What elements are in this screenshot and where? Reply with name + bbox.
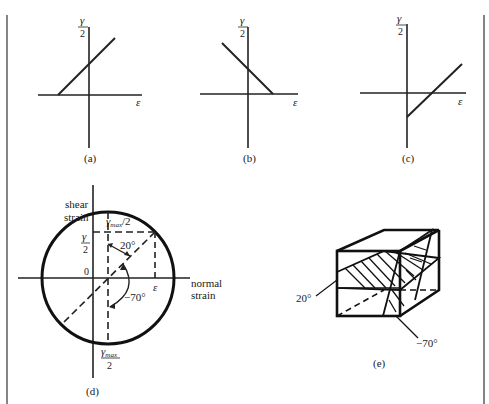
cube-top-face: [337, 230, 439, 251]
y-label-num: γ: [80, 14, 85, 26]
caption-b: (b): [243, 152, 256, 165]
origin-label: 0: [84, 266, 89, 277]
panel-e-strain-cube: [316, 230, 439, 338]
plane-20deg: [337, 251, 439, 290]
cube-angle-neg70-label: −70°: [416, 337, 438, 349]
y-label-den: 2: [240, 28, 245, 39]
hidden-edge: [337, 290, 384, 316]
y-label-den: 2: [398, 26, 403, 37]
x-label: ε: [136, 96, 141, 108]
epsilon-label: ε: [153, 281, 158, 293]
figure-canvas: γ 2 ε (a) γ 2 ε (b) γ 2 ε (c): [0, 0, 489, 404]
normal-label-2: strain: [191, 289, 216, 301]
angle-20-label: 20°: [120, 239, 135, 251]
panel-c: γ 2 ε (c): [360, 12, 466, 165]
bottom-label-num: γmax: [101, 345, 118, 359]
leader-20: [316, 280, 337, 296]
panel-b: γ 2 ε (b): [200, 14, 298, 165]
top-label: γmax/2: [106, 215, 131, 229]
strain-line: [407, 64, 462, 117]
x-label: ε: [293, 96, 298, 108]
arrowhead: [109, 303, 115, 309]
y-label-num: γ: [397, 12, 402, 24]
panel-d-mohr-circle: shear strain γmax/2 γ 2 0 ε 20° −70° nor…: [18, 185, 222, 398]
shear-label-2: strain: [64, 211, 89, 223]
x-label: ε: [458, 95, 463, 107]
bottom-label-den: 2: [107, 360, 112, 371]
panel-a: γ 2 ε (a): [38, 14, 142, 165]
caption-a: (a): [84, 152, 97, 165]
gamma-half-den: 2: [83, 244, 88, 255]
shear-label-1: shear: [65, 198, 89, 210]
y-label-num: γ: [240, 14, 245, 26]
cube-angle-20-label: 20°: [296, 292, 311, 304]
caption-e: (e): [373, 357, 386, 370]
strain-line: [58, 38, 115, 95]
angle-neg70-label: −70°: [124, 291, 146, 303]
caption-d: (d): [86, 385, 99, 398]
caption-c: (c): [402, 152, 415, 165]
y-label-den: 2: [80, 28, 85, 39]
cube-front-face: [337, 251, 400, 316]
gamma-half-num: γ: [82, 230, 87, 242]
leader-neg70: [396, 316, 418, 338]
normal-label-1: normal: [191, 277, 222, 289]
